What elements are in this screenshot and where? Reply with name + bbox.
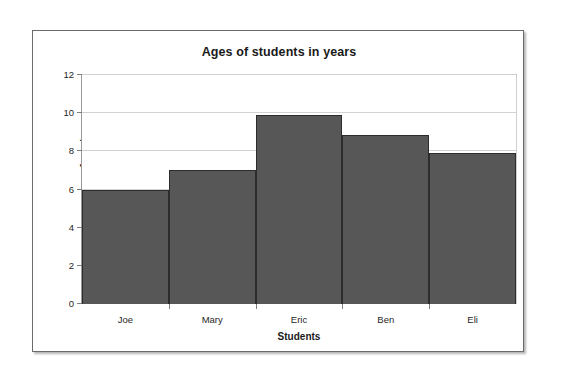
x-tick-label-eric: Eric [256,314,343,325]
bars-layer [82,75,516,304]
chart-frame: Ages of students in years Ages in years … [32,30,524,352]
x-tick-mark [256,304,257,309]
y-tick-label: 10 [63,107,74,118]
bar-eric[interactable] [256,115,343,304]
x-axis-labels: JoeMaryEricBenEli [82,314,516,325]
bar-mary[interactable] [169,170,256,304]
y-tick-label: 6 [69,183,74,194]
x-tick-mark [429,304,430,309]
x-axis-title: Students [81,331,517,342]
x-tick-label-mary: Mary [169,314,256,325]
x-tick-mark [169,304,170,309]
x-tick-label-eli: Eli [429,314,516,325]
x-tick-mark [342,304,343,309]
x-tick-label-joe: Joe [82,314,169,325]
x-tick-label-ben: Ben [342,314,429,325]
bar-joe[interactable] [82,190,169,305]
y-tick-label: 12 [63,69,74,80]
plot-area: 024681012 JoeMaryEricBenEli [81,74,517,304]
y-tick-label: 2 [69,259,74,270]
y-tick-label: 0 [69,298,74,309]
bar-ben[interactable] [342,135,429,304]
chart-title: Ages of students in years [33,45,525,59]
y-tick-label: 8 [69,145,74,156]
y-tick-label: 4 [69,221,74,232]
bar-eli[interactable] [429,153,516,304]
